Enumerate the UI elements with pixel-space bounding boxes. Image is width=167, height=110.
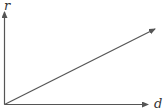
x-axis-label: d bbox=[154, 96, 162, 110]
diagram-canvas: r d bbox=[0, 0, 167, 110]
ray-line bbox=[5, 29, 156, 105]
y-axis-label: r bbox=[4, 0, 11, 13]
